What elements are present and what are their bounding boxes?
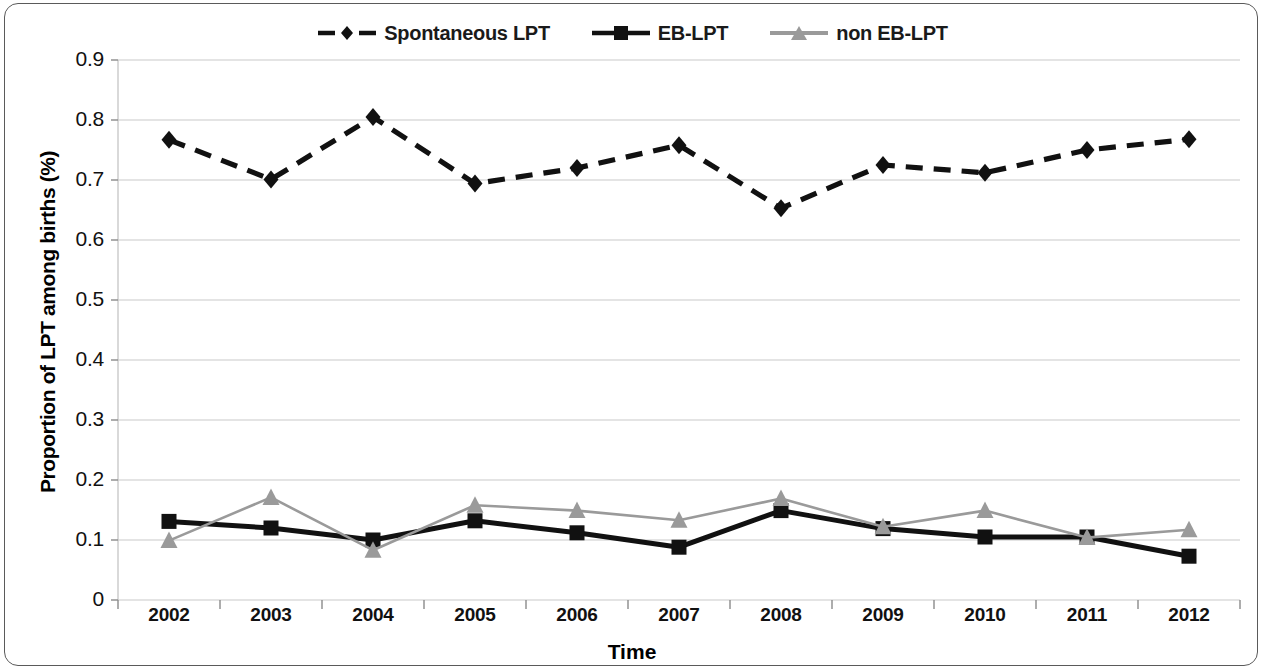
x-axis-tick-label: 2009 [828,604,938,626]
x-axis-tick-label: 2005 [420,604,530,626]
data-point-marker [672,136,687,154]
series-line-spontaneous-lpt [169,117,1189,208]
y-axis-tick-label: 0.5 [34,287,104,311]
data-point-marker [162,514,177,529]
data-point-marker [263,488,280,505]
y-axis-tick-label: 0.1 [34,527,104,551]
chart-plot [0,0,1264,672]
data-point-marker [773,490,790,507]
x-axis-tick-label: 2004 [318,604,428,626]
data-point-marker [264,170,279,188]
data-point-marker [977,502,994,518]
data-point-marker [468,513,483,528]
y-axis-tick-label: 0 [34,587,104,611]
data-point-marker [978,530,993,545]
data-point-marker [876,156,891,174]
data-point-marker [1182,130,1197,148]
data-point-marker [570,159,585,177]
data-point-marker [162,131,177,149]
y-axis-title: Proportion of LPT among births (%) [36,52,60,592]
data-point-marker [978,164,993,182]
x-axis-title: Time [0,640,1264,664]
y-axis-tick-label: 0.4 [34,347,104,371]
y-axis-tick-label: 0.2 [34,467,104,491]
data-point-marker [1182,549,1197,564]
y-axis-tick-label: 0.8 [34,107,104,131]
x-axis-tick-label: 2011 [1032,604,1142,626]
y-axis-tick-label: 0.9 [34,47,104,71]
y-axis-tick-label: 0.7 [34,167,104,191]
x-axis-tick-label: 2006 [522,604,632,626]
data-point-marker [672,540,687,555]
x-axis-tick-label: 2012 [1134,604,1244,626]
figure-container: Spontaneous LPT EB-LPT non EB-LPT [0,0,1264,672]
data-point-marker [264,521,279,536]
y-axis-tick-label: 0.3 [34,407,104,431]
data-point-marker [570,525,585,540]
y-axis-tick-label: 0.6 [34,227,104,251]
x-axis-tick-label: 2010 [930,604,1040,626]
data-point-marker [1080,141,1095,159]
x-axis-tick-label: 2002 [114,604,224,626]
x-axis-tick-label: 2008 [726,604,836,626]
x-axis-tick-label: 2007 [624,604,734,626]
plot-area-wrapper [0,0,1264,672]
data-point-marker [774,199,789,217]
x-axis-tick-label: 2003 [216,604,326,626]
